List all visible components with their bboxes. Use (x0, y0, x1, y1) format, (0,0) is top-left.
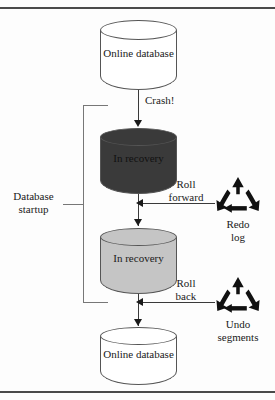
bracket-database-startup (83, 105, 108, 303)
edge-crash-arrowhead (134, 120, 142, 127)
bottom-rule (0, 391, 275, 393)
source-redo-log-label: Redo log (206, 218, 270, 244)
source-undo-segments-label: Undo segments (202, 318, 274, 344)
cylinder-top (100, 327, 177, 345)
edge-undo-arrowhead (136, 298, 143, 306)
bracket-label: Database startup (6, 190, 61, 216)
cylinder-top (100, 20, 177, 40)
edge-roll-back-arrowhead (134, 319, 142, 326)
edge-crash-line (138, 90, 139, 122)
edge-redo-arrowhead (136, 199, 143, 207)
node-label: In recovery (100, 252, 177, 265)
edge-crash-label: Crash! (145, 94, 174, 107)
bracket-stem (63, 204, 84, 205)
edge-roll-forward-label: Roll forward (160, 178, 212, 204)
recycle-icon (216, 176, 260, 216)
top-rule (0, 7, 275, 9)
edge-roll-back-label: Roll back (160, 277, 212, 303)
edge-roll-forward-arrowhead (134, 219, 142, 226)
node-online-db-top: Online database (100, 20, 177, 90)
diagram-canvas: Online database Crash! In recovery Roll … (0, 0, 275, 400)
node-label: Online database (100, 47, 177, 60)
cylinder-top (100, 228, 177, 246)
cylinder-top (100, 128, 177, 146)
node-online-db-bottom: Online database (100, 327, 177, 385)
recycle-icon (216, 276, 260, 316)
node-label: In recovery (100, 152, 177, 165)
node-label: Online database (100, 348, 177, 361)
